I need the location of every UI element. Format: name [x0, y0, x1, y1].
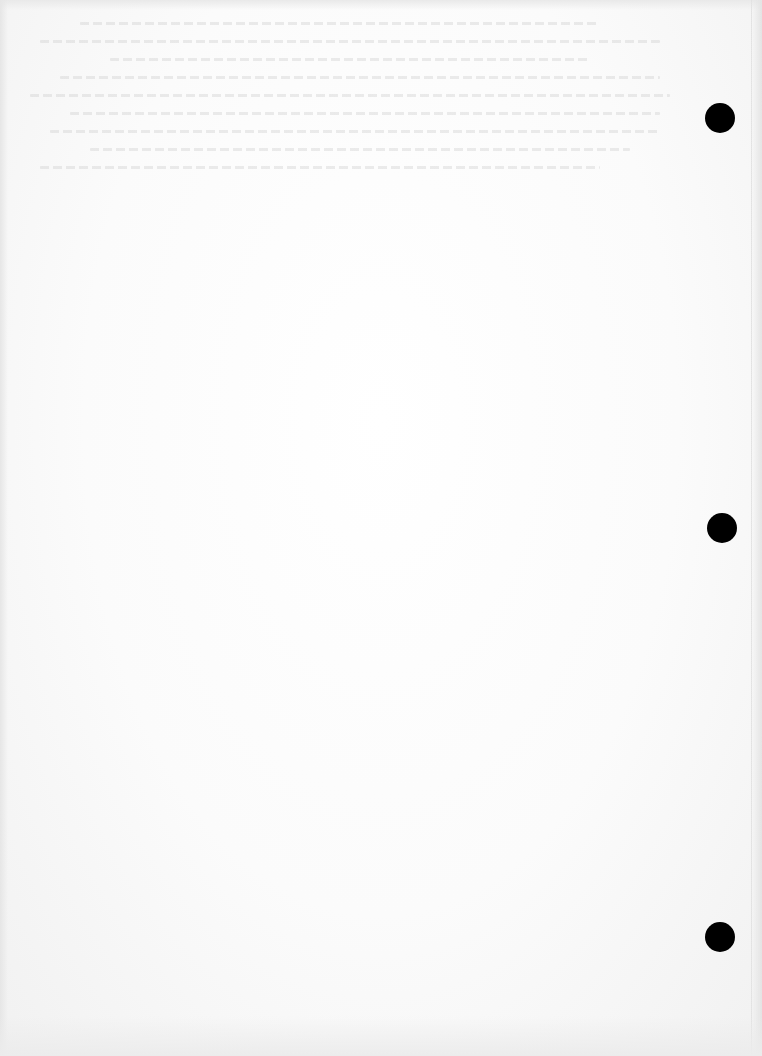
bleed-through-text-region [20, 14, 680, 189]
bleed-through-line [60, 76, 660, 79]
bleed-through-line [30, 94, 670, 97]
bleed-through-line [40, 40, 660, 43]
page-edge-right-shadow [751, 0, 762, 1056]
punch-hole-top [705, 103, 735, 133]
page-edge-left-shadow [0, 0, 8, 1056]
bleed-through-line [110, 58, 590, 61]
bleed-through-line [80, 22, 600, 25]
page-edge-top-shadow [0, 0, 762, 10]
bleed-through-line [50, 130, 660, 133]
scanned-page [0, 0, 762, 1056]
page-edge-bottom-shadow [0, 1016, 762, 1056]
punch-hole-middle [707, 513, 737, 543]
bleed-through-line [90, 148, 630, 151]
bleed-through-line [40, 166, 600, 169]
punch-hole-bottom [705, 922, 735, 952]
bleed-through-line [70, 112, 660, 115]
